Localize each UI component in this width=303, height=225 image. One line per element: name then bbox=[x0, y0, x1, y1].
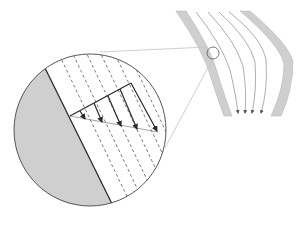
streamline-1 bbox=[196, 12, 238, 113]
diagram-canvas bbox=[0, 0, 303, 225]
left-wall bbox=[176, 11, 232, 116]
magnified-inset bbox=[0, 40, 216, 210]
